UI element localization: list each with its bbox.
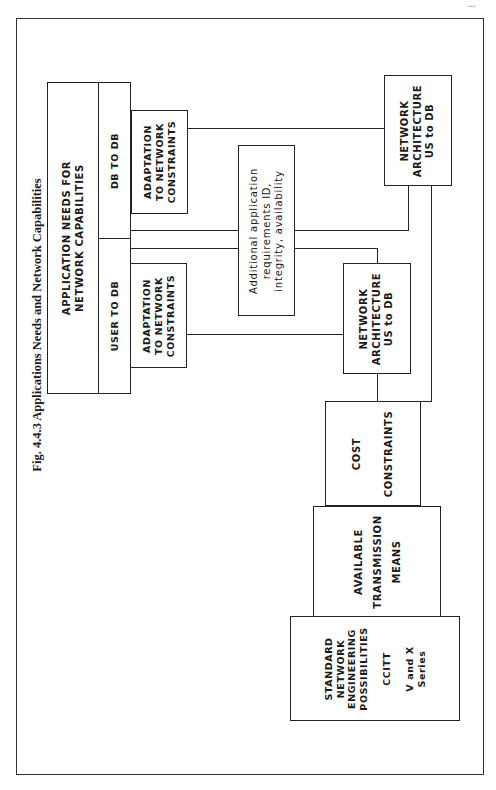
additional-requirements-box: Additional application requirements ID, … [238, 145, 295, 316]
user-to-db-label: USER TO DB [109, 281, 121, 352]
edge-additional-netarch1-v [408, 186, 409, 231]
network-architecture-1-box: NETWORK ARCHITECTURE US to DB [384, 75, 452, 186]
edge-adapt-user-netarch2 [187, 334, 343, 335]
cost-constraints-box: COST CONSTRAINTS [325, 401, 421, 506]
edge-usertodb-additional [131, 248, 238, 249]
edge-additional-netarch1 [295, 230, 408, 231]
adaptation-db-box: ADAPTATION TO NETWORK CONSTRAINTS [131, 110, 188, 214]
figure-title: Fig. 4.4.3 Applications Needs and Networ… [30, 178, 45, 471]
edge-netarch2-cost [377, 374, 378, 401]
page-number: ... [468, 0, 476, 9]
cost-constraints-label: COST CONSTRAINTS [349, 410, 397, 496]
db-to-db-box: DB TO DB [98, 82, 131, 239]
additional-requirements-label: Additional application requirements ID, … [248, 167, 286, 293]
app-needs-label: APPLICATION NEEDS FOR NETWORK CAPABILITI… [61, 161, 86, 315]
adaptation-db-label: ADAPTATION TO NETWORK CONSTRAINTS [142, 121, 178, 203]
standard-engineering-box: STANDARD NETWORK ENGINEERING POSSIBILITI… [290, 616, 460, 721]
available-transmission-box: AVAILABLE TRANSMISSION MEANS [313, 506, 441, 618]
edge-netarch1-cost [431, 186, 432, 402]
edge-additional-netarch2 [295, 248, 378, 249]
db-to-db-label: DB TO DB [109, 132, 121, 188]
edge-additional-netarch2-v [377, 248, 378, 263]
adaptation-user-label: ADAPTATION TO NETWORK CONSTRAINTS [141, 274, 177, 356]
available-transmission-label: AVAILABLE TRANSMISSION MEANS [349, 515, 406, 608]
network-architecture-1-label: NETWORK ARCHITECTURE US to DB [399, 84, 437, 177]
user-to-db-box: USER TO DB [98, 238, 131, 394]
app-needs-box: APPLICATION NEEDS FOR NETWORK CAPABILITI… [47, 82, 99, 394]
standard-engineering-label: STANDARD NETWORK ENGINEERING POSSIBILITI… [323, 627, 427, 710]
edge-netarch1-cost-h [420, 401, 432, 402]
network-architecture-2-box: NETWORK ARCHITECTURE US to DB [343, 263, 411, 374]
adaptation-user-box: ADAPTATION TO NETWORK CONSTRAINTS [130, 263, 187, 368]
network-architecture-2-label: NETWORK ARCHITECTURE US to DB [358, 272, 396, 365]
edge-adapt-db-netarch1 [188, 128, 384, 129]
edge-dbtodb-additional [131, 230, 238, 231]
